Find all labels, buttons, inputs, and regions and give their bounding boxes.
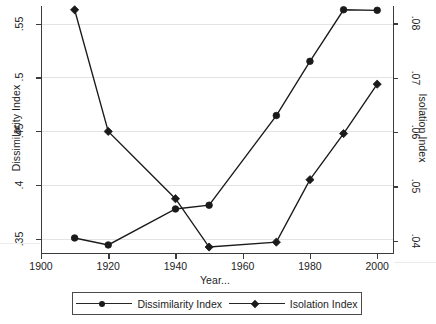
x-tick [175,253,176,259]
y-tick-label-right: .08 [410,6,422,40]
x-tick-label: 2000 [357,260,397,272]
x-tick-label: 1980 [290,260,330,272]
y-tick-right [393,23,398,24]
legend-key-circle-icon [76,299,132,309]
y-tick-label-right: .05 [410,169,422,203]
legend-key-marker [251,299,259,307]
y-tick-label-right: .06 [410,115,422,149]
y-tick-label-right: .04 [410,224,422,258]
x-tick-label: 1900 [21,260,61,272]
y-tick-left [36,24,41,25]
y-tick-left [36,239,41,240]
chart-legend: Dissimilarity IndexIsolation Index [72,292,362,315]
x-tick [377,253,378,259]
x-tick [41,253,42,259]
y-axis-left-line [41,6,42,253]
x-tick-label: 1920 [88,260,128,272]
gridline [42,24,393,25]
y-tick-right [393,132,398,133]
gridline [42,77,393,78]
legend-entry-1[interactable]: Dissimilarity Index [76,298,222,310]
x-tick-label: 1960 [223,260,263,272]
x-tick [243,253,244,259]
legend-label: Dissimilarity Index [137,298,222,310]
gridline [42,185,393,186]
y-tick-label-left: .35 [13,222,25,256]
y-tick-label-left: .45 [13,114,25,148]
legend-key-diamond-icon [229,299,285,309]
x-axis-line [41,253,394,254]
legend-label: Isolation Index [290,298,358,310]
y-tick-label-left: .4 [13,168,25,202]
x-axis-title: Year... [150,274,280,286]
y-tick-left [36,185,41,186]
legend-key-marker [99,301,105,307]
gridline [42,239,393,240]
x-tick-label: 1940 [155,260,195,272]
chart-figure: Dissimilarity Index Isolation Index Year… [0,0,436,324]
x-tick [310,253,311,259]
x-tick [108,253,109,259]
gridline [42,131,393,132]
y-tick-right [393,78,398,79]
y-tick-right [393,241,398,242]
y-tick-label-left: .55 [13,7,25,41]
y-tick-left [36,131,41,132]
scan-artifact [394,262,436,263]
y-tick-label-right: .07 [410,61,422,95]
y-tick-right [393,186,398,187]
plot-area: .35.4.45.5.55 .04.05.06.07.08 [41,6,394,253]
y-tick-label-left: .5 [13,60,25,94]
y-tick-left [36,77,41,78]
legend-entry-2[interactable]: Isolation Index [229,298,358,310]
y-axis-right-line [393,6,394,253]
